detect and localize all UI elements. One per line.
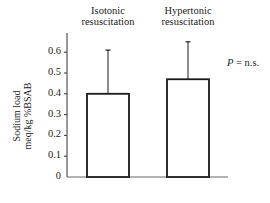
y-tick-label: 0.1 — [37, 149, 61, 160]
y-tick-label: 0.5 — [37, 66, 61, 77]
y-tick-label: 0.4 — [37, 87, 61, 98]
bar-0 — [87, 94, 129, 177]
y-tick-label: 0.3 — [37, 108, 61, 119]
category-line: Hypertonic — [143, 5, 233, 16]
category-label-isotonic: Isotonic resuscitation — [63, 5, 153, 27]
y-axis-label-line: meq/kg %BSAB — [22, 83, 33, 150]
bars — [87, 42, 209, 177]
category-label-hypertonic: Hypertonic resuscitation — [143, 5, 233, 27]
p-value-text: = n.s. — [233, 57, 259, 68]
category-line: resuscitation — [143, 16, 233, 27]
bar-1 — [167, 79, 209, 177]
y-tick-label: 0.2 — [37, 128, 61, 139]
y-axis-label: Sodium load meq/kg %BSAB — [11, 83, 33, 150]
y-axis-label-line: Sodium load — [11, 83, 22, 150]
significance-annotation: P = n.s. — [227, 57, 259, 68]
category-line: Isotonic — [63, 5, 153, 16]
y-tick-label: 0 — [37, 170, 61, 181]
y-tick-label: 0.6 — [37, 45, 61, 56]
category-line: resuscitation — [63, 16, 153, 27]
